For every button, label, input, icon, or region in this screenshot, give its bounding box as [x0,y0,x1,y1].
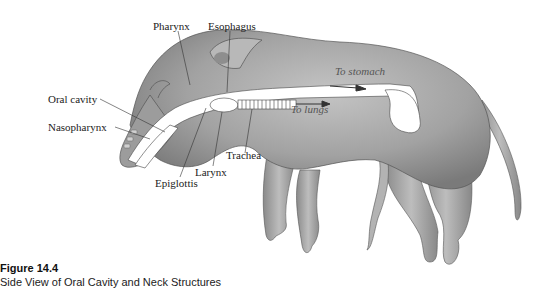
label-to-lungs: To lungs [291,104,328,115]
trachea-rings [238,100,296,109]
label-to-stomach: To stomach [335,66,385,77]
figure-caption: Side View of Oral Cavity and Neck Struct… [0,276,221,288]
front-leg-back [297,170,320,253]
label-pharynx: Pharynx [153,21,190,32]
label-nasopharynx: Nasopharynx [48,122,107,133]
figure-number: Figure 14.4 [0,262,58,274]
label-trachea: Trachea [226,150,261,161]
ear-inner [214,52,230,64]
umbilical-cord [367,150,388,250]
diagram-canvas: Pharynx Esophagus Oral cavity Nasopharyn… [0,0,543,294]
label-larynx: Larynx [195,167,227,178]
label-oral-cavity: Oral cavity [48,94,97,105]
label-epiglottis: Epiglottis [155,178,198,189]
label-esophagus: Esophagus [208,21,256,32]
fetal-pig-illustration [0,0,543,294]
larynx-shape [210,98,238,112]
